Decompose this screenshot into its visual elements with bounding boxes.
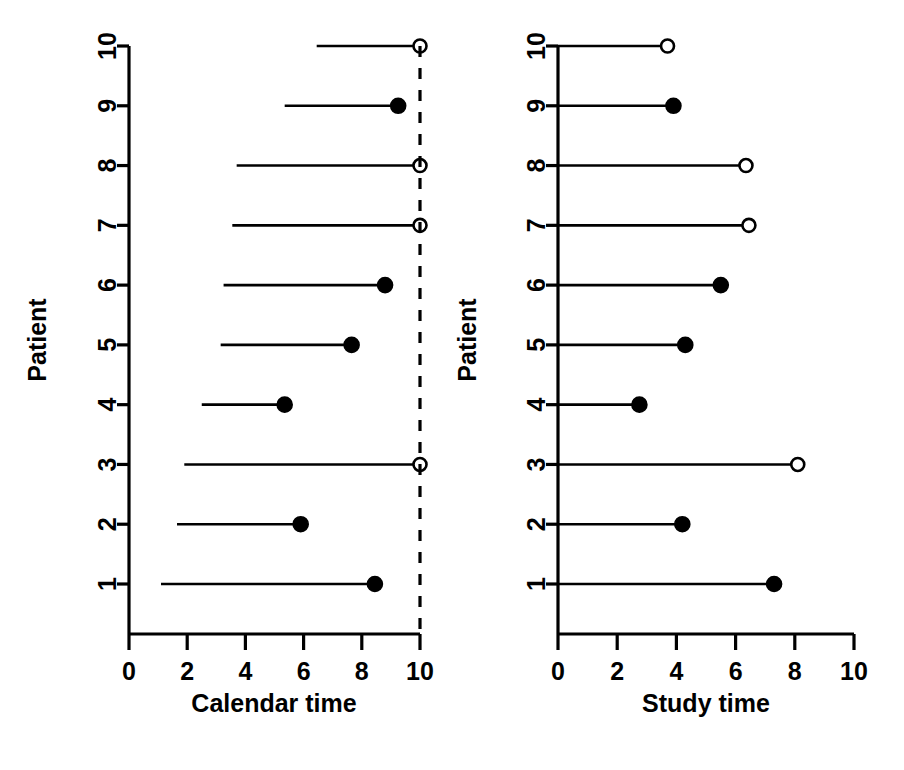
calendar-time-y-tick-group: 12345678910	[93, 32, 129, 591]
x-tick-label-0: 0	[551, 657, 565, 685]
x-tick-label-8: 8	[355, 657, 369, 685]
study-time-panel: 12345678910 0246810 Study time Patient	[444, 0, 904, 770]
y-tick-label-9: 9	[522, 99, 550, 113]
calendar-time-y-axis-label: Patient	[23, 298, 51, 382]
y-tick-label-7: 7	[522, 218, 550, 232]
y-tick-label-5: 5	[522, 338, 550, 352]
y-tick-label-4: 4	[522, 398, 550, 412]
y-tick-label-6: 6	[522, 278, 550, 292]
event-marker-patient-6	[378, 278, 393, 293]
event-marker-patient-4	[277, 397, 292, 412]
y-tick-label-3: 3	[522, 457, 550, 471]
event-marker-patient-2	[675, 517, 690, 532]
censored-marker-patient-3	[791, 458, 804, 471]
y-tick-label-8: 8	[522, 159, 550, 173]
calendar-time-plot-area: 12345678910 0246810 Calendar time Patien…	[0, 0, 460, 770]
censored-marker-patient-8	[739, 159, 752, 172]
survival-follow-up-figure: 12345678910 0246810 Calendar time Patien…	[0, 0, 904, 770]
event-marker-patient-9	[391, 98, 406, 113]
y-tick-label-7: 7	[93, 218, 121, 232]
study-time-x-axis-label: Study time	[642, 689, 770, 717]
calendar-time-data-group	[161, 40, 426, 592]
study-time-y-tick-group: 12345678910	[522, 32, 558, 591]
y-tick-label-1: 1	[522, 577, 550, 591]
x-tick-label-8: 8	[788, 657, 802, 685]
x-tick-label-10: 10	[406, 657, 434, 685]
event-marker-patient-2	[293, 517, 308, 532]
y-tick-label-10: 10	[522, 32, 550, 60]
study-time-y-axis-label: Patient	[453, 298, 481, 382]
y-tick-label-3: 3	[93, 457, 121, 471]
event-marker-patient-5	[678, 337, 693, 352]
y-tick-label-2: 2	[93, 517, 121, 531]
y-tick-label-8: 8	[93, 159, 121, 173]
x-tick-label-4: 4	[669, 657, 683, 685]
y-tick-label-10: 10	[93, 32, 121, 60]
x-tick-label-0: 0	[122, 657, 136, 685]
calendar-time-panel: 12345678910 0246810 Calendar time Patien…	[0, 0, 460, 770]
x-tick-label-2: 2	[180, 657, 194, 685]
y-tick-label-2: 2	[522, 517, 550, 531]
study-time-plot-area: 12345678910 0246810 Study time Patient	[444, 0, 904, 770]
y-tick-label-9: 9	[93, 99, 121, 113]
x-tick-label-10: 10	[840, 657, 868, 685]
y-tick-label-1: 1	[93, 577, 121, 591]
x-tick-label-4: 4	[238, 657, 252, 685]
x-tick-label-2: 2	[610, 657, 624, 685]
censored-marker-patient-10	[661, 40, 674, 53]
event-marker-patient-4	[632, 397, 647, 412]
calendar-time-x-axis-label: Calendar time	[191, 689, 356, 717]
censored-marker-patient-7	[742, 219, 755, 232]
study-time-x-tick-group: 0246810	[551, 634, 868, 685]
event-marker-patient-6	[713, 278, 728, 293]
event-marker-patient-5	[344, 337, 359, 352]
study-time-data-group	[558, 40, 804, 592]
y-tick-label-4: 4	[93, 398, 121, 412]
y-tick-label-6: 6	[93, 278, 121, 292]
x-tick-label-6: 6	[297, 657, 311, 685]
calendar-time-x-tick-group: 0246810	[122, 634, 434, 685]
event-marker-patient-1	[367, 577, 382, 592]
event-marker-patient-9	[666, 98, 681, 113]
x-tick-label-6: 6	[729, 657, 743, 685]
y-tick-label-5: 5	[93, 338, 121, 352]
event-marker-patient-1	[767, 577, 782, 592]
